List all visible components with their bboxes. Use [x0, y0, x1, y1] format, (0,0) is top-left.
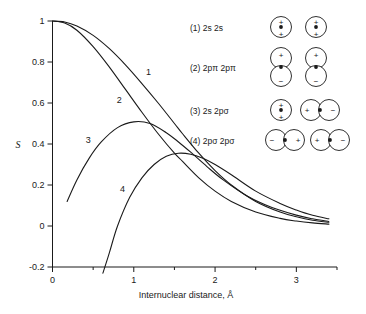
orbital-sign-minus: −	[331, 106, 336, 115]
overlap-integral-chart: -0.200.20.40.60.81 0123 S Internuclear d…	[0, 0, 366, 314]
orbital-sign-plus: +	[279, 30, 284, 39]
orbital-nucleus-dot	[328, 138, 332, 142]
curve-label-1: 1	[146, 67, 151, 77]
orbital-sign-plus: +	[314, 30, 319, 39]
y-tick-label: 0.2	[32, 180, 45, 190]
legend-diagram-2: +−+−	[271, 48, 327, 87]
orbital-sign-plus: +	[315, 136, 320, 145]
orbital-sign-plus: +	[314, 51, 319, 60]
orbital-nucleus-dot	[279, 25, 283, 29]
y-tick-label: 0.6	[32, 98, 45, 108]
figure-container: -0.200.20.40.60.81 0123 S Internuclear d…	[0, 0, 366, 314]
orbital-nucleus-dot	[283, 138, 287, 142]
curve-label-2: 2	[117, 95, 122, 105]
legend-diagram-1: ++++	[271, 17, 327, 39]
legend: (1) 2s 2s++++(2) 2pπ 2pπ+−+−(3) 2s 2pσ++…	[190, 17, 350, 151]
y-axis-title: S	[16, 139, 21, 150]
y-tick-label: -0.2	[29, 262, 45, 272]
orbital-sign-plus: +	[279, 113, 284, 122]
orbital-nucleus-dot	[279, 65, 283, 69]
legend-entry-label-2: (2) 2pπ 2pπ	[190, 63, 236, 73]
x-tick-label: 0	[50, 275, 55, 285]
orbital-sign-plus: +	[279, 51, 284, 60]
x-axis-title: Internuclear distance, Å	[139, 290, 234, 300]
y-tick-label: 0	[39, 221, 44, 231]
orbital-nucleus-dot	[318, 108, 322, 112]
y-tick-label: 1	[39, 16, 44, 26]
x-axis-ticks	[53, 267, 338, 272]
orbital-sign-plus: +	[305, 106, 310, 115]
orbital-nucleus-dot	[314, 25, 318, 29]
orbital-nucleus-dot	[314, 65, 318, 69]
curve-label-3: 3	[86, 135, 91, 145]
curve-label-4: 4	[120, 184, 125, 194]
legend-diagram-3: +++−	[271, 100, 340, 122]
legend-entry-label-3: (3) 2s 2pσ	[190, 106, 230, 116]
y-tick-label: 0.4	[32, 139, 45, 149]
legend-entry-1: (1) 2s 2s++++	[190, 17, 327, 39]
curve-number-labels: 1234	[86, 67, 151, 194]
orbital-sign-minus: −	[270, 136, 275, 145]
y-axis-tick-labels: -0.200.20.40.60.81	[29, 16, 45, 272]
y-tick-label: 0.8	[32, 57, 45, 67]
legend-entry-3: (3) 2s 2pσ+++−	[190, 100, 340, 122]
orbital-nucleus-dot	[279, 108, 283, 112]
legend-diagram-4: −++−	[266, 130, 350, 151]
legend-entry-label-4: (4) 2pσ 2pσ	[190, 136, 235, 146]
orbital-sign-minus: −	[314, 77, 319, 86]
orbital-sign-plus: +	[296, 136, 301, 145]
legend-entry-label-1: (1) 2s 2s	[190, 23, 223, 33]
orbital-sign-minus: −	[341, 136, 346, 145]
x-axis-tick-labels: 0123	[50, 275, 299, 285]
y-axis-ticks	[48, 21, 53, 267]
legend-entry-4: (4) 2pσ 2pσ−++−	[190, 130, 350, 151]
x-tick-label: 1	[131, 275, 136, 285]
x-tick-label: 2	[213, 275, 218, 285]
x-tick-label: 3	[294, 275, 299, 285]
legend-entry-2: (2) 2pπ 2pπ+−+−	[190, 48, 327, 87]
orbital-sign-minus: −	[279, 77, 284, 86]
